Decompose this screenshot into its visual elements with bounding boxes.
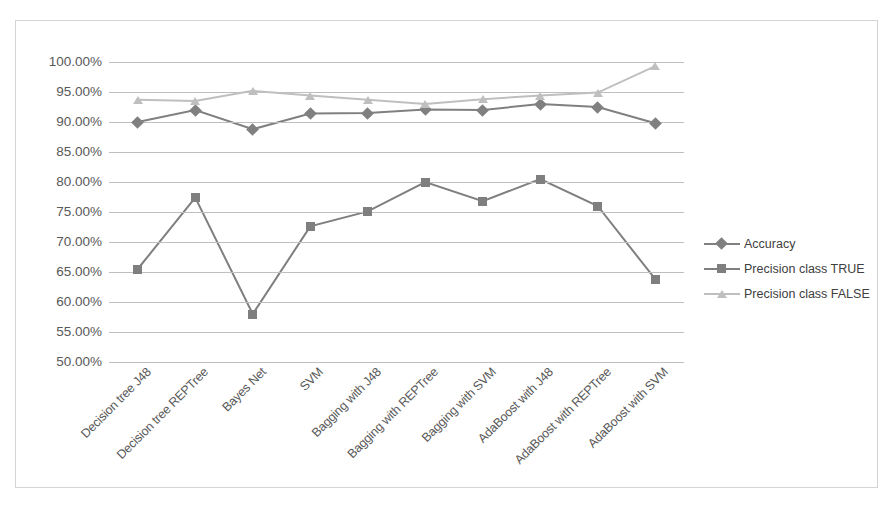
- x-axis-tick-label: AdaBoost with REPTree: [512, 365, 614, 467]
- legend-label-precision-false: Precision class FALSE: [744, 287, 870, 301]
- data-point-marker: [651, 275, 660, 284]
- y-axis-tick-label: 95.00%: [22, 85, 102, 99]
- legend-item-precision-true[interactable]: Precision class TRUE: [704, 256, 879, 281]
- series-line-precision-class-true: [138, 179, 656, 314]
- data-point-marker: [535, 92, 545, 100]
- data-point-marker: [421, 178, 430, 187]
- y-axis-tick-label: 80.00%: [22, 175, 102, 189]
- plot-area: [109, 62, 684, 362]
- data-point-marker: [363, 207, 372, 216]
- legend-item-precision-false[interactable]: Precision class FALSE: [704, 281, 879, 306]
- x-axis-tick-label: Bayes Net: [219, 365, 268, 414]
- legend-label-precision-true: Precision class TRUE: [744, 262, 865, 276]
- gridline: [109, 302, 684, 303]
- data-point-marker: [650, 62, 660, 70]
- legend-marker-diamond-icon: [704, 237, 740, 251]
- data-point-marker: [190, 97, 200, 105]
- y-axis-labels: 50.00%55.00%60.00%65.00%70.00%75.00%80.0…: [16, 62, 102, 362]
- legend-item-accuracy[interactable]: Accuracy: [704, 231, 879, 256]
- series-line-accuracy: [138, 104, 656, 129]
- gridline: [109, 212, 684, 213]
- gridline: [109, 332, 684, 333]
- x-axis-tick-label: SVM: [298, 365, 327, 394]
- data-point-marker: [191, 193, 200, 202]
- data-point-marker: [248, 87, 258, 95]
- chart-container: 50.00%55.00%60.00%65.00%70.00%75.00%80.0…: [15, 20, 878, 488]
- y-axis-tick-label: 60.00%: [22, 295, 102, 309]
- data-point-marker: [133, 96, 143, 104]
- y-axis-tick-label: 85.00%: [22, 145, 102, 159]
- data-point-marker: [420, 100, 430, 108]
- gridline: [109, 122, 684, 123]
- data-point-marker: [536, 175, 545, 184]
- data-point-marker: [593, 202, 602, 211]
- y-axis-tick-label: 55.00%: [22, 325, 102, 339]
- data-point-marker: [306, 222, 315, 231]
- legend-marker-square-icon: [704, 262, 740, 276]
- data-point-marker: [305, 92, 315, 100]
- y-axis-tick-label: 50.00%: [22, 355, 102, 369]
- y-axis-tick-label: 100.00%: [22, 55, 102, 69]
- series-line-precision-class-false: [138, 66, 656, 104]
- x-axis-labels: Decision tree J48Decision tree REPTreeBa…: [109, 365, 684, 485]
- gridline: [109, 362, 684, 363]
- legend-glyph: [717, 264, 726, 273]
- legend-label-accuracy: Accuracy: [744, 237, 795, 251]
- legend-glyph: [717, 290, 727, 298]
- gridline: [109, 272, 684, 273]
- data-point-marker: [478, 197, 487, 206]
- chart-legend: Accuracy Precision class TRUE Precision …: [704, 231, 879, 306]
- data-point-marker: [478, 95, 488, 103]
- data-point-marker: [363, 96, 373, 104]
- gridline: [109, 62, 684, 63]
- data-point-marker: [593, 89, 603, 97]
- gridline: [109, 242, 684, 243]
- legend-glyph: [715, 237, 728, 250]
- gridline: [109, 152, 684, 153]
- data-point-marker: [248, 310, 257, 319]
- data-point-marker: [133, 265, 142, 274]
- y-axis-tick-label: 75.00%: [22, 205, 102, 219]
- legend-marker-triangle-icon: [704, 287, 740, 301]
- y-axis-tick-label: 70.00%: [22, 235, 102, 249]
- y-axis-tick-label: 65.00%: [22, 265, 102, 279]
- gridline: [109, 182, 684, 183]
- y-axis-tick-label: 90.00%: [22, 115, 102, 129]
